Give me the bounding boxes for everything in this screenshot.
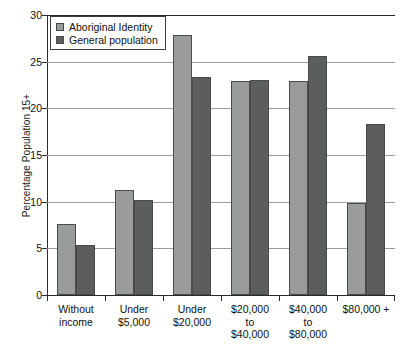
- bar: [250, 80, 269, 295]
- x-axis-category-label: Under$5,000: [103, 303, 165, 328]
- x-tick-mark: [337, 295, 338, 301]
- x-axis-ticks: [47, 295, 395, 301]
- bar: [366, 124, 385, 295]
- bar: [192, 77, 211, 295]
- legend-label: Aboriginal Identity: [69, 21, 152, 33]
- x-axis-label-line: Under: [103, 303, 165, 316]
- x-axis-category-label: Under$20,000: [161, 303, 223, 328]
- plot-area: 051015202530: [47, 15, 395, 295]
- x-axis-label-line: $20,000: [161, 316, 223, 329]
- x-axis-label-line: income: [45, 316, 107, 329]
- x-tick-mark: [221, 295, 222, 301]
- x-axis-label-line: to: [219, 316, 281, 329]
- x-axis-label-line: $40,000: [219, 328, 281, 341]
- y-tick-label: 15: [30, 149, 42, 161]
- legend-swatch-icon: [56, 36, 64, 44]
- bar: [173, 35, 192, 295]
- x-axis-label-line: $5,000: [103, 316, 165, 329]
- legend-swatch-icon: [56, 23, 64, 31]
- y-tick-label: 0: [36, 289, 42, 301]
- legend-item: Aboriginal Identity: [56, 20, 158, 33]
- x-tick-mark: [163, 295, 164, 301]
- x-axis-label-line: to: [277, 316, 339, 329]
- x-axis-label-line: Without: [45, 303, 107, 316]
- bar: [76, 245, 95, 295]
- bars-layer: [47, 15, 395, 295]
- bar: [308, 56, 327, 295]
- bar: [231, 81, 250, 295]
- x-axis-labels: WithoutincomeUnder$5,000Under$20,000$20,…: [47, 303, 395, 352]
- x-tick-mark: [394, 295, 395, 301]
- x-axis-label-line: $80,000 +: [335, 303, 397, 316]
- y-tick-label: 25: [30, 56, 42, 68]
- bar: [57, 224, 76, 295]
- bar: [289, 81, 308, 295]
- x-tick-mark: [279, 295, 280, 301]
- bar: [134, 200, 153, 295]
- bar-chart: Percentage Population 15+ 051015202530 W…: [0, 0, 405, 352]
- x-axis-category-label: $80,000 +: [335, 303, 397, 316]
- y-tick-label: 20: [30, 102, 42, 114]
- legend: Aboriginal Identity General population: [50, 16, 166, 50]
- y-tick-label: 10: [30, 196, 42, 208]
- x-tick-mark: [47, 295, 48, 301]
- bar: [115, 190, 134, 295]
- x-axis-category-label: $20,000to$40,000: [219, 303, 281, 341]
- x-axis-label-line: Under: [161, 303, 223, 316]
- bar: [347, 203, 366, 295]
- y-tick-label: 5: [36, 242, 42, 254]
- y-tick-label: 30: [30, 9, 42, 21]
- x-axis-category-label: $40,000to$80,000: [277, 303, 339, 341]
- legend-item: General population: [56, 33, 158, 46]
- x-tick-mark: [105, 295, 106, 301]
- legend-label: General population: [69, 34, 158, 46]
- x-axis-label-line: $40,000: [277, 303, 339, 316]
- x-axis-label-line: $80,000: [277, 328, 339, 341]
- x-axis-category-label: Withoutincome: [45, 303, 107, 328]
- x-axis-label-line: $20,000: [219, 303, 281, 316]
